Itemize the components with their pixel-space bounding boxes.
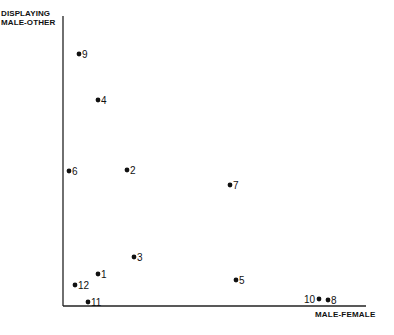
point-label: 9 <box>82 49 88 60</box>
data-point: 3 <box>132 252 143 263</box>
point-label: 4 <box>101 95 107 106</box>
point-marker <box>96 98 101 103</box>
data-point: 12 <box>73 280 90 291</box>
data-point: 1 <box>96 269 107 280</box>
point-label: 12 <box>78 280 90 291</box>
data-points: 123456789101112 <box>67 49 337 308</box>
data-point: 7 <box>228 180 239 191</box>
point-label: 1 <box>101 269 107 280</box>
scatter-plot: 123456789101112 <box>0 0 394 335</box>
point-marker <box>132 255 137 260</box>
data-point: 10 <box>304 294 322 305</box>
point-marker <box>86 300 91 305</box>
point-marker <box>234 278 239 283</box>
data-point: 6 <box>67 166 78 177</box>
point-marker <box>67 169 72 174</box>
point-label: 10 <box>304 294 316 305</box>
point-label: 11 <box>91 297 102 308</box>
point-marker <box>96 272 101 277</box>
data-point: 4 <box>96 95 107 106</box>
data-point: 5 <box>234 275 245 286</box>
point-label: 5 <box>239 275 245 286</box>
y-axis-label: DISPLAYING MALE-OTHER <box>1 9 55 27</box>
point-marker <box>228 183 233 188</box>
point-label: 8 <box>331 295 337 306</box>
point-marker <box>317 297 322 302</box>
point-label: 3 <box>137 252 143 263</box>
point-marker <box>77 52 82 57</box>
point-marker <box>326 298 331 303</box>
data-point: 8 <box>326 295 337 306</box>
data-point: 2 <box>125 165 136 176</box>
point-label: 2 <box>130 165 136 176</box>
point-label: 7 <box>233 180 239 191</box>
point-marker <box>125 168 130 173</box>
y-axis-label-line2: MALE-OTHER <box>1 18 55 27</box>
x-axis-label: MALE-FEMALE <box>315 310 375 319</box>
y-axis-label-line1: DISPLAYING <box>1 9 55 18</box>
data-point: 9 <box>77 49 88 60</box>
point-marker <box>73 283 78 288</box>
point-label: 6 <box>72 166 78 177</box>
